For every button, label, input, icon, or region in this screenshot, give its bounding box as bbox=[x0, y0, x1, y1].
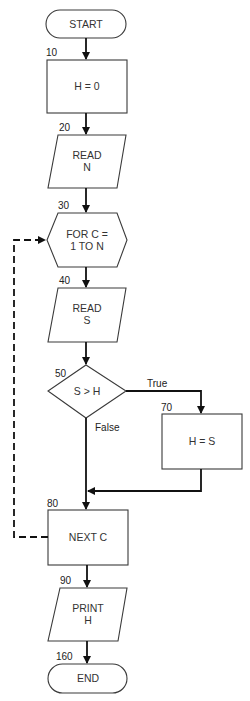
line-number: 40 bbox=[59, 275, 71, 286]
line-number: 10 bbox=[46, 47, 58, 58]
node-50: 50 S > H bbox=[48, 365, 126, 418]
line-number: 160 bbox=[56, 651, 73, 662]
flowchart: START 10 H = 0 20 READ N 30 FOR C = 1 TO… bbox=[0, 0, 250, 701]
node-text: H = 0 bbox=[74, 80, 100, 92]
branch-label-true: True bbox=[147, 378, 168, 389]
edge-80-30-loopback bbox=[14, 240, 48, 537]
node-text: S bbox=[83, 314, 90, 326]
edge-70-merge bbox=[88, 469, 201, 491]
branch-label-false: False bbox=[95, 422, 120, 433]
line-number: 30 bbox=[58, 200, 70, 211]
node-30: 30 FOR C = 1 TO N bbox=[47, 200, 127, 267]
node-text: START bbox=[69, 18, 103, 30]
node-text: S > H bbox=[74, 385, 101, 397]
line-number: 80 bbox=[47, 498, 59, 509]
line-number: 20 bbox=[59, 122, 71, 133]
node-text: READ bbox=[72, 302, 102, 314]
node-text: READ bbox=[72, 149, 102, 161]
node-text: FOR C = bbox=[66, 228, 108, 240]
node-text: 1 TO N bbox=[70, 240, 103, 252]
node-text: H = S bbox=[189, 435, 216, 447]
node-text: NEXT C bbox=[69, 531, 108, 543]
line-number: 70 bbox=[161, 402, 173, 413]
line-number: 90 bbox=[60, 575, 72, 586]
node-text: N bbox=[83, 161, 91, 173]
node-start: START bbox=[46, 10, 126, 38]
node-20: 20 READ N bbox=[48, 122, 126, 188]
node-80: 80 NEXT C bbox=[47, 498, 128, 565]
node-40: 40 READ S bbox=[48, 275, 126, 342]
node-text: H bbox=[84, 614, 92, 626]
node-text: END bbox=[77, 672, 100, 684]
line-number: 50 bbox=[55, 368, 67, 379]
node-text: PRINT bbox=[72, 602, 104, 614]
